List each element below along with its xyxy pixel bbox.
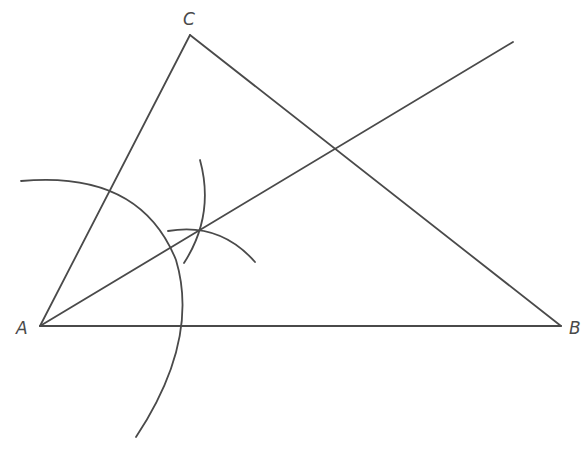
arc-from-ac-point xyxy=(168,229,255,262)
label-c: C xyxy=(183,9,195,29)
arc-centered-at-a xyxy=(21,180,183,437)
label-a: A xyxy=(15,318,28,338)
arc-from-ab-point xyxy=(184,160,205,263)
angle-bisector-diagram: A B C xyxy=(0,0,581,454)
bisector-ray xyxy=(40,42,513,326)
label-b: B xyxy=(569,318,581,338)
segment-bc xyxy=(190,35,561,326)
